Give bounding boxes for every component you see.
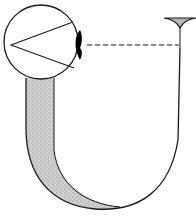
- eye-tube-diagram: [0, 0, 196, 219]
- funnel-icon: [164, 18, 196, 28]
- left-arm-stippled-tube: [26, 76, 120, 209]
- eye-circle: [4, 5, 78, 79]
